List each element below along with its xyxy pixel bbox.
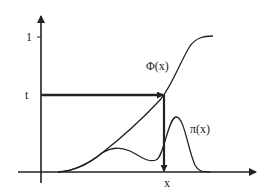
y-threshold-label: t: [25, 88, 29, 102]
pdf-label: π(x): [190, 122, 210, 136]
x-point-label: x: [164, 176, 170, 190]
inverse-cdf-diagram: 1 t x Φ(x) π(x): [0, 0, 278, 194]
y-tick-one-label: 1: [26, 30, 32, 44]
cdf-label: Φ(x): [146, 59, 169, 73]
